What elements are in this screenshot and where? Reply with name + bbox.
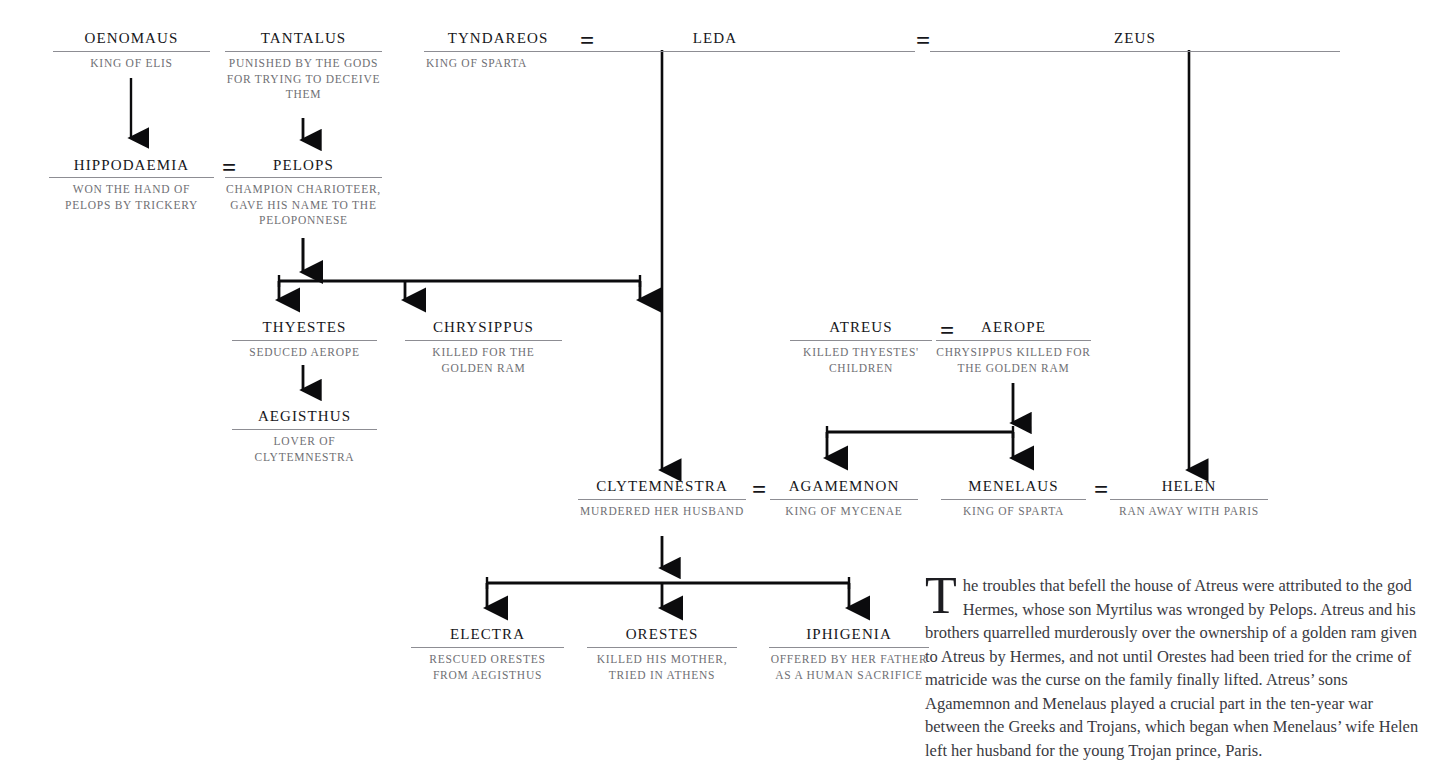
person-name-pelops: Pelops [225, 150, 382, 177]
name-rule [587, 647, 737, 648]
person-desc-clytemnestra: Murdered her husband [578, 504, 746, 520]
person-card-agamemnon[interactable]: Agamemnon King of Mycenae [770, 472, 918, 520]
person-name-zeus: Zeus [930, 24, 1340, 51]
person-desc-agamemnon: King of Mycenae [770, 504, 918, 520]
person-desc-iphigenia: Offered by her father as a human sacrifi… [769, 652, 929, 683]
person-name-aegisthus: Aegisthus [232, 402, 377, 429]
name-rule [232, 340, 377, 341]
person-name-iphigenia: Iphigenia [769, 620, 929, 647]
person-card-helen[interactable]: Helen Ran away with Paris [1110, 472, 1268, 520]
person-name-menelaus: Menelaus [941, 472, 1086, 499]
person-desc-tyndareos: King of Sparta [424, 56, 572, 72]
person-desc-helen: Ran away with Paris [1110, 504, 1268, 520]
narrative-text: he troubles that befell the house of Atr… [925, 576, 1418, 760]
person-name-chrysippus: Chrysippus [405, 313, 562, 340]
person-name-electra: Electra [411, 620, 564, 647]
person-card-thyestes[interactable]: Thyestes Seduced Aerope [232, 313, 377, 361]
name-rule [411, 647, 564, 648]
name-rule [53, 51, 210, 52]
person-card-menelaus[interactable]: Menelaus King of Sparta [941, 472, 1086, 520]
person-name-oenomaus: Oenomaus [53, 24, 210, 51]
name-rule [941, 499, 1086, 500]
person-card-electra[interactable]: Electra Rescued Orestes from Aegisthus [411, 620, 564, 683]
name-rule [769, 647, 929, 648]
name-rule [225, 51, 382, 52]
name-rule [936, 340, 1091, 341]
person-card-zeus[interactable]: Zeus [930, 24, 1340, 56]
person-name-atreus: Atreus [790, 313, 932, 340]
family-tree-diagram: Oenomaus King of Elis Tantalus Punished … [0, 0, 1436, 780]
name-rule [1110, 499, 1268, 500]
person-desc-hippodaemia: Won the hand of Pelops by trickery [49, 182, 214, 213]
person-card-oenomaus[interactable]: Oenomaus King of Elis [53, 24, 210, 72]
person-name-orestes: Orestes [587, 620, 737, 647]
person-name-thyestes: Thyestes [232, 313, 377, 340]
name-rule [770, 499, 918, 500]
person-desc-thyestes: Seduced Aerope [232, 345, 377, 361]
person-desc-menelaus: King of Sparta [941, 504, 1086, 520]
person-desc-aegisthus: Lover of Clytemnestra [232, 434, 377, 465]
person-name-aerope: Aerope [936, 313, 1091, 340]
person-card-aerope[interactable]: Aerope Chrysippus killed for the golden … [936, 313, 1091, 376]
name-rule [405, 340, 562, 341]
person-desc-electra: Rescued Orestes from Aegisthus [411, 652, 564, 683]
person-name-clytemnestra: Clytemnestra [578, 472, 746, 499]
person-desc-oenomaus: King of Elis [53, 56, 210, 72]
person-card-chrysippus[interactable]: Chrysippus Killed for the golden ram [405, 313, 562, 376]
name-rule [232, 429, 377, 430]
name-rule [225, 177, 382, 178]
person-desc-atreus: Killed Thyestes' children [790, 345, 932, 376]
person-name-hippodaemia: Hippodaemia [49, 150, 214, 177]
name-rule [790, 340, 932, 341]
person-card-iphigenia[interactable]: Iphigenia Offered by her father as a hum… [769, 620, 929, 683]
person-desc-chrysippus: Killed for the golden ram [405, 345, 562, 376]
person-card-aegisthus[interactable]: Aegisthus Lover of Clytemnestra [232, 402, 377, 465]
name-rule [49, 177, 214, 178]
marriage-equals-menelaus-helen: = [1094, 477, 1108, 502]
person-card-atreus[interactable]: Atreus Killed Thyestes' children [790, 313, 932, 376]
person-desc-orestes: Killed his mother, tried in Athens [587, 652, 737, 683]
person-card-tantalus[interactable]: Tantalus Punished by the gods for trying… [225, 24, 382, 103]
name-rule [515, 51, 915, 52]
person-card-clytemnestra[interactable]: Clytemnestra Murdered her husband [578, 472, 746, 520]
person-name-tantalus: Tantalus [225, 24, 382, 51]
person-desc-tantalus: Punished by the gods for trying to decei… [225, 56, 382, 103]
marriage-equals-clytemnestra-agamemnon: = [752, 477, 766, 502]
person-name-leda: Leda [515, 24, 915, 51]
person-desc-aerope: Chrysippus killed for the golden ram [936, 345, 1091, 376]
person-card-orestes[interactable]: Orestes Killed his mother, tried in Athe… [587, 620, 737, 683]
narrative-paragraph: The troubles that befell the house of At… [925, 574, 1430, 762]
marriage-equals-leda-zeus: = [916, 28, 930, 53]
name-rule [578, 499, 746, 500]
narrative-dropcap: T [925, 574, 963, 616]
person-name-helen: Helen [1110, 472, 1268, 499]
person-desc-pelops: Champion charioteer, gave his name to th… [225, 182, 382, 229]
person-card-leda[interactable]: Leda [515, 24, 915, 56]
person-name-agamemnon: Agamemnon [770, 472, 918, 499]
name-rule [930, 51, 1340, 52]
person-card-pelops[interactable]: Pelops Champion charioteer, gave his nam… [225, 150, 382, 229]
person-card-hippodaemia[interactable]: Hippodaemia Won the hand of Pelops by tr… [49, 150, 214, 213]
